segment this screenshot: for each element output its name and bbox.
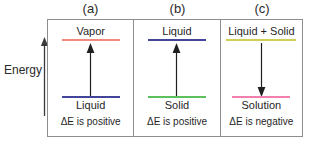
panel-a-lower-level-line [62, 96, 120, 98]
panel-caption-c: (c) [221, 0, 303, 17]
panel-c-delta-caption: ΔE is negative [221, 116, 302, 127]
panel-b-lower-level-label: Solid [134, 99, 219, 112]
energy-diagram-figure: Energy (a) (b) (c) Vapor Liquid ΔE is po… [0, 0, 313, 144]
panel-b-upper-level-line [148, 39, 206, 41]
up-arrow-icon [171, 42, 182, 98]
panel-b-lower-level-line [148, 96, 206, 98]
panel-caption-b: (b) [134, 0, 221, 17]
panel-c-lower-level: Solution [221, 96, 302, 112]
panel-a-lower-level-label: Liquid [48, 99, 133, 112]
panel-c-upper-level-line [226, 39, 296, 41]
panel-c-lower-level-line [232, 96, 290, 98]
panel-a-upper-level: Vapor [48, 25, 133, 41]
panel-caption-a: (a) [47, 0, 134, 17]
panel-a-upper-level-label: Vapor [48, 25, 133, 38]
panel-b-upper-level: Liquid [134, 25, 219, 41]
panel-a-delta-caption: ΔE is positive [48, 116, 133, 127]
panel-b-lower-level: Solid [134, 96, 219, 112]
panel-c: Liquid + Solid Solution ΔE is negative [221, 20, 302, 136]
panel-a-lower-level: Liquid [48, 96, 133, 112]
up-arrow-icon [85, 42, 96, 98]
panel-c-lower-level-label: Solution [221, 99, 302, 112]
panel-b: Liquid Solid ΔE is positive [134, 20, 220, 136]
down-arrow-icon [256, 42, 267, 98]
panel-c-upper-level-label: Liquid + Solid [221, 25, 302, 38]
panel-b-upper-level-label: Liquid [134, 25, 219, 38]
panel-c-upper-level: Liquid + Solid [221, 25, 302, 41]
energy-axis: Energy [0, 36, 47, 118]
panel-b-delta-caption: ΔE is positive [134, 116, 219, 127]
panel-a: Vapor Liquid ΔE is positive [48, 20, 134, 136]
diagram-box: Vapor Liquid ΔE is positive Liquid [47, 19, 303, 137]
energy-axis-label: Energy [0, 64, 42, 77]
panel-a-upper-level-line [62, 39, 120, 41]
